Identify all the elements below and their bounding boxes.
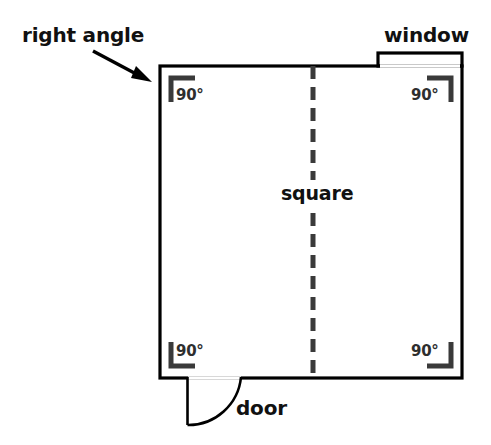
door-swing-arc	[188, 377, 242, 425]
window-opening	[378, 53, 462, 66]
angle-label-bottom-right: 90°	[411, 342, 438, 360]
right-angle-label: right angle	[22, 23, 144, 47]
angle-label-top-right: 90°	[411, 86, 438, 104]
door-label: door	[236, 396, 287, 420]
right-angle-pointer-arrow	[93, 51, 152, 82]
square-label: square	[276, 180, 358, 206]
floor-plan-diagram: right angle window square door 90° 90° 9…	[0, 0, 491, 445]
angle-label-bottom-left: 90°	[176, 342, 203, 360]
floor-plan-svg	[0, 0, 491, 445]
window-label: window	[384, 23, 469, 47]
angle-label-top-left: 90°	[176, 86, 203, 104]
